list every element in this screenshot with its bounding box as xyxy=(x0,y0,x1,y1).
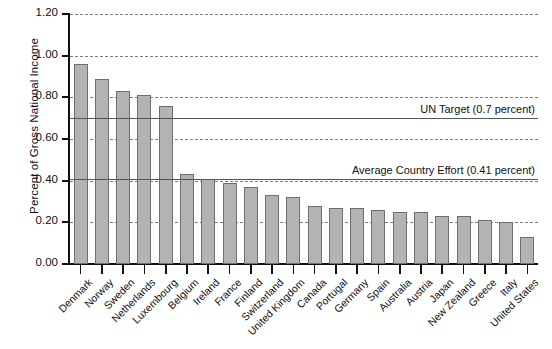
bar xyxy=(244,187,258,264)
y-axis-tick-label: 1.20 xyxy=(20,6,58,18)
y-axis-tick-mark xyxy=(62,13,70,15)
bar xyxy=(180,174,194,264)
x-axis-tick-mark xyxy=(314,265,316,274)
x-axis-tick-mark xyxy=(80,265,82,274)
bar xyxy=(137,95,151,264)
x-axis-tick-mark xyxy=(229,265,231,274)
y-axis-tick-mark xyxy=(62,180,70,182)
x-axis-tick-mark xyxy=(378,265,380,274)
bar xyxy=(371,210,385,264)
bar xyxy=(329,208,343,264)
bar xyxy=(457,216,471,264)
x-axis-tick-mark xyxy=(101,265,103,274)
x-axis-tick-mark xyxy=(186,265,188,274)
bar xyxy=(414,212,428,264)
y-axis-tick-label: 0.00 xyxy=(20,256,58,268)
x-axis-tick-mark xyxy=(144,265,146,274)
x-axis-tick-mark xyxy=(165,265,167,274)
y-axis-tick-mark xyxy=(62,263,70,265)
y-axis-tick-label: 0.40 xyxy=(20,173,58,185)
bar xyxy=(308,206,322,264)
x-axis-tick-mark xyxy=(122,265,124,274)
reference-line xyxy=(70,179,538,180)
chart-figure: Percent of Gross National Income 0.000.2… xyxy=(0,0,552,349)
y-axis-tick-label: 0.60 xyxy=(20,131,58,143)
x-axis-tick-mark xyxy=(250,265,252,274)
y-axis-tick-label: 1.00 xyxy=(20,48,58,60)
bar xyxy=(159,106,173,264)
bar xyxy=(95,79,109,264)
bar xyxy=(116,91,130,264)
bar xyxy=(286,197,300,264)
x-axis-tick-mark xyxy=(207,265,209,274)
bar xyxy=(393,212,407,264)
x-axis-tick-mark xyxy=(484,265,486,274)
x-axis-tick-mark xyxy=(356,265,358,274)
y-axis-tick-mark xyxy=(62,96,70,98)
bar xyxy=(350,208,364,264)
y-axis-tick-label: 0.80 xyxy=(20,89,58,101)
gridline xyxy=(70,14,538,15)
reference-line xyxy=(70,118,538,119)
bar xyxy=(265,195,279,264)
x-axis-tick-mark xyxy=(441,265,443,274)
y-axis-tick-mark xyxy=(62,138,70,140)
bar xyxy=(520,237,534,264)
x-axis-tick-mark xyxy=(463,265,465,274)
y-axis-tick-label: 0.20 xyxy=(20,214,58,226)
bar xyxy=(499,222,513,264)
reference-line-label: Average Country Effort (0.41 percent) xyxy=(349,164,538,176)
x-axis-tick-mark xyxy=(271,265,273,274)
bar xyxy=(478,220,492,264)
x-axis-tick-mark xyxy=(527,265,529,274)
y-axis-tick-mark xyxy=(62,55,70,57)
gridline xyxy=(70,56,538,57)
x-axis-tick-mark xyxy=(293,265,295,274)
y-axis-tick-mark xyxy=(62,221,70,223)
x-axis-tick-mark xyxy=(399,265,401,274)
bar xyxy=(223,183,237,264)
x-axis-tick-mark xyxy=(505,265,507,274)
x-axis-tick-mark xyxy=(335,265,337,274)
bar xyxy=(201,179,215,264)
x-axis-tick-mark xyxy=(420,265,422,274)
bar xyxy=(74,64,88,264)
bar xyxy=(435,216,449,264)
reference-line-label: UN Target (0.7 percent) xyxy=(417,103,538,115)
